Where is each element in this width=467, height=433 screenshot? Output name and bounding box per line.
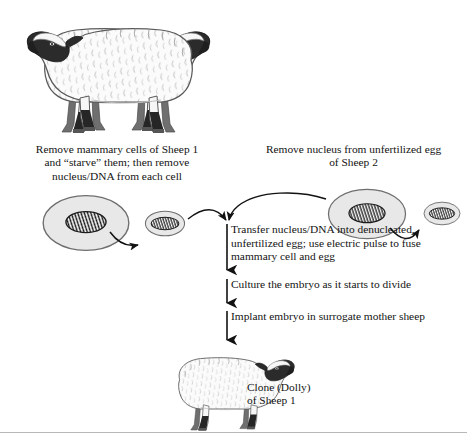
step-text-transfer: Transfer nucleus/DNA into denucleated, u… (231, 223, 467, 264)
caption-sheep-2: Remove nucleus from unfertilized egg of … (240, 143, 467, 170)
arrow-nucleus-to-transfer (188, 210, 226, 220)
arrow-egg-to-transfer (229, 193, 326, 220)
extracted-egg-nucleus (424, 202, 460, 225)
caption-sheep-1: Remove mammary cells of Sheep 1 and “sta… (0, 143, 234, 183)
step-text-culture: Culture the embryo as it starts to divid… (231, 278, 467, 292)
diagram-graphics-layer (0, 0, 467, 433)
step-text-implant: Implant embryo in surrogate mother sheep (231, 310, 467, 324)
mammary-cell (43, 196, 129, 251)
sheep-2-illustration (27, 29, 192, 133)
extracted-mammary-nucleus (145, 211, 184, 236)
caption-clone-dolly: Clone (Dolly) of Sheep 1 (247, 381, 367, 408)
cloning-diagram-figure: Remove mammary cells of Sheep 1 and “sta… (0, 0, 467, 433)
